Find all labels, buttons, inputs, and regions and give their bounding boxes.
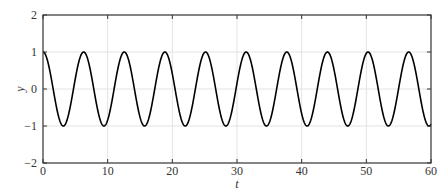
grid-lines (43, 15, 431, 163)
x-tick-label: 60 (425, 164, 437, 178)
x-tick-label: 50 (360, 164, 372, 178)
line-chart: 0102030405060 −2−1012 t y (0, 0, 448, 196)
x-tick-label: 40 (296, 164, 308, 178)
x-tick-label: 30 (231, 164, 243, 178)
y-tick-label: 1 (31, 45, 37, 59)
x-axis-label: t (235, 177, 239, 191)
y-tick-label: −1 (24, 119, 37, 133)
y-tick-label: −2 (24, 156, 37, 170)
x-tick-label: 10 (102, 164, 114, 178)
y-tick-label: 2 (31, 8, 37, 22)
y-tick-label: 0 (31, 82, 37, 96)
y-axis-label: y (13, 86, 27, 93)
x-tick-labels: 0102030405060 (40, 164, 437, 178)
x-tick-label: 0 (40, 164, 46, 178)
x-tick-label: 20 (166, 164, 178, 178)
